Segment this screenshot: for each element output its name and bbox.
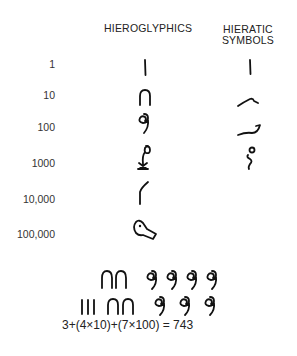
value-label-1: 1 xyxy=(49,58,55,70)
hieratic-100-curve-icon xyxy=(236,122,264,138)
hieroglyph-10000-finger-icon xyxy=(136,180,152,206)
value-label-10000: 10,000 xyxy=(23,193,55,205)
hieroglyph-10-heel-icon xyxy=(137,88,153,108)
hieroglyph-100000-tadpole-icon xyxy=(130,217,160,243)
hieratic-1-stroke-icon xyxy=(245,58,255,78)
example-line1-numerals xyxy=(99,266,229,292)
hieroglyph-1-stroke-icon xyxy=(140,58,150,78)
header-hieratic: HIERATIC SYMBOLS xyxy=(218,24,278,46)
value-label-10: 10 xyxy=(43,89,55,101)
hieroglyph-1000-lotus-icon xyxy=(134,142,154,172)
header-hieroglyphics: HIEROGLYPHICS xyxy=(104,23,192,34)
hieratic-10-hook-icon xyxy=(236,94,262,108)
example-line2-numerals xyxy=(78,292,238,318)
example-equation: 3+(4×10)+(7×100) = 743 xyxy=(62,318,193,332)
hieratic-1000-curl-icon xyxy=(244,146,258,172)
value-label-100000: 100,000 xyxy=(17,228,55,240)
value-label-100: 100 xyxy=(37,121,55,133)
header-hieratic-line2: SYMBOLS xyxy=(218,35,278,46)
hieroglyph-100-coil-icon xyxy=(136,112,152,136)
value-label-1000: 1000 xyxy=(32,157,55,169)
